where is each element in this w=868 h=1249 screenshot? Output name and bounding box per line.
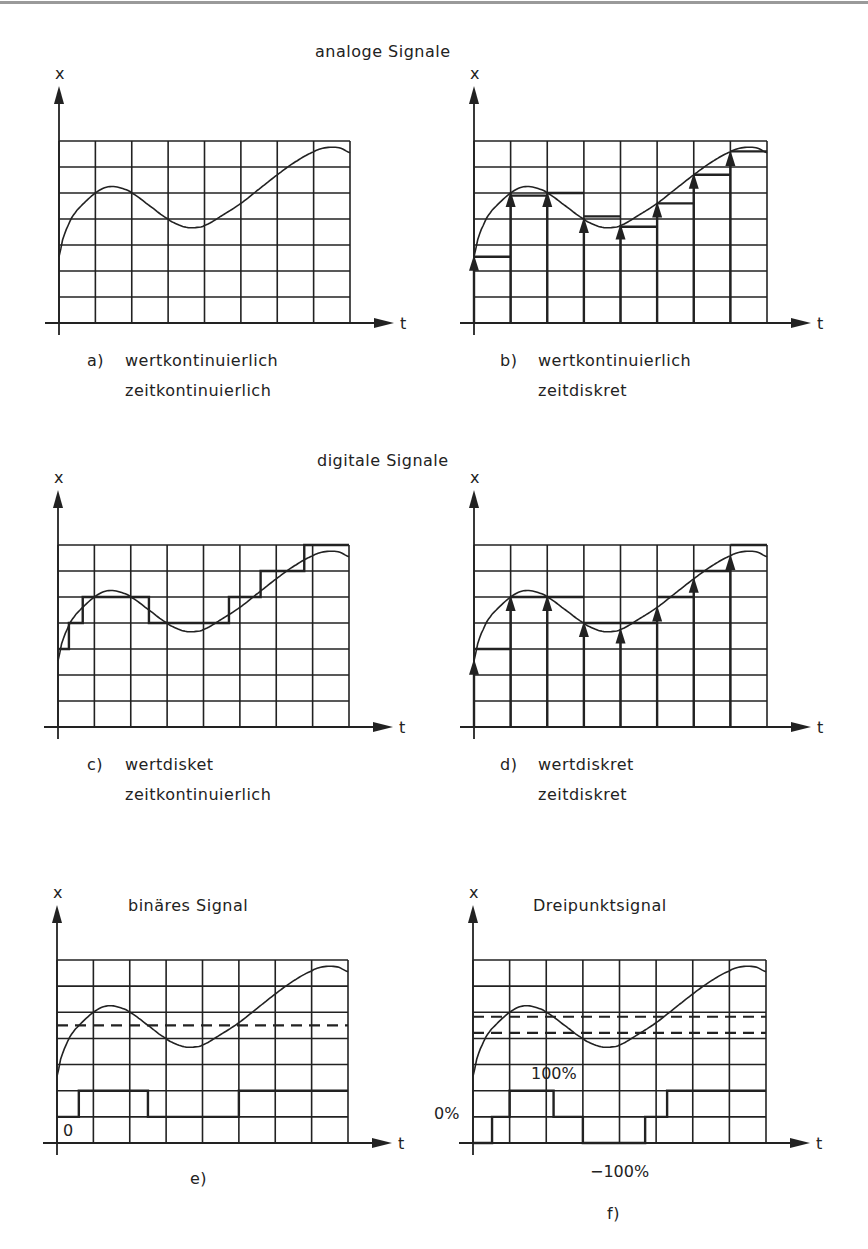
x-axis-arrow-icon xyxy=(373,722,393,732)
x-axis-label: t xyxy=(399,718,405,737)
level-label-plus: 100% xyxy=(531,1064,577,1083)
chart-panel-e: xt0 xyxy=(43,883,404,1155)
x-axis-label: t xyxy=(817,718,823,737)
chart-panel-c: xt xyxy=(44,468,405,739)
sample-arrow-icon xyxy=(616,628,626,644)
level-label-zero: 0% xyxy=(434,1104,459,1123)
y-axis-label: x xyxy=(470,468,479,487)
y-axis-arrow-icon xyxy=(52,905,62,923)
x-axis-label: t xyxy=(816,1134,822,1153)
sample-arrow-icon xyxy=(725,554,735,570)
y-axis-label: x xyxy=(470,64,479,83)
signal-figure: xt xt xt xt xt0 xt100%0%−100% xyxy=(0,0,868,1249)
x-axis-label: t xyxy=(400,314,406,333)
x-axis-arrow-icon xyxy=(374,318,394,328)
chart-panel-d: xt xyxy=(460,468,823,739)
level-label-zero: 0 xyxy=(63,1121,73,1140)
y-axis-label: x xyxy=(55,64,64,83)
chart-panel-f: xt100%0%−100% xyxy=(434,883,822,1181)
y-axis-arrow-icon xyxy=(53,490,63,508)
x-axis-arrow-icon xyxy=(791,318,811,328)
sample-arrow-icon xyxy=(469,659,479,675)
y-axis-arrow-icon xyxy=(469,86,479,104)
y-axis-arrow-icon xyxy=(469,490,479,508)
x-axis-arrow-icon xyxy=(372,1138,392,1148)
x-axis-arrow-icon xyxy=(790,1138,810,1148)
sample-arrow-icon xyxy=(689,577,699,593)
chart-panel-a: xt xyxy=(45,64,406,335)
y-axis-label: x xyxy=(469,883,478,902)
y-axis-label: x xyxy=(54,468,63,487)
level-label-minus: −100% xyxy=(590,1162,649,1181)
y-axis-label: x xyxy=(53,883,62,902)
y-axis-arrow-icon xyxy=(54,86,64,104)
sample-arrow-icon xyxy=(652,605,662,621)
chart-panel-b: xt xyxy=(460,64,823,335)
y-axis-arrow-icon xyxy=(468,905,478,923)
x-axis-label: t xyxy=(398,1134,404,1153)
x-axis-arrow-icon xyxy=(791,722,811,732)
x-axis-label: t xyxy=(817,314,823,333)
